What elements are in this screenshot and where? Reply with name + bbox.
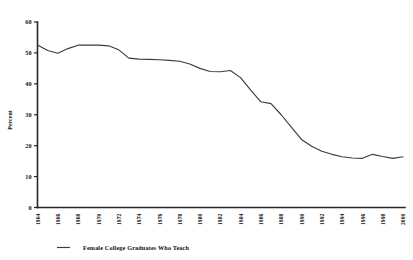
x-tick-label-1988: 1988 [278,213,284,225]
x-tick-label-1994: 1994 [339,213,345,225]
x-tick-label-1970: 1970 [96,213,102,225]
y-tick-label-60: 60 [25,18,31,25]
x-tick-label-1998: 1998 [380,213,386,225]
x-tick-label-1964: 1964 [35,213,41,225]
series-line-female-college-graduates-who-teach [38,45,404,158]
x-tick-label-1978: 1978 [177,213,183,225]
x-tick-label-1984: 1984 [238,213,244,225]
legend-entry-label: Female College Graduates Who Teach [83,244,189,251]
x-axis-group: 1964196619681970197219741976197819801982… [35,208,407,226]
x-tick-label-2000: 2000 [400,213,406,225]
legend-group: Female College Graduates Who Teach [57,244,189,251]
y-tick-label-10: 10 [25,173,31,180]
x-tick-label-1986: 1986 [258,213,264,225]
x-tick-label-1976: 1976 [157,213,163,225]
y-tick-label-30: 30 [25,111,31,118]
x-tick-label-1966: 1966 [55,213,61,225]
x-tick-label-1996: 1996 [360,213,366,225]
y-tick-label-40: 40 [25,80,31,87]
x-tick-label-1974: 1974 [136,213,142,225]
x-tick-label-group: 1964196619681970197219741976197819801982… [35,213,407,225]
x-tick-label-1990: 1990 [299,213,305,225]
x-tick-label-1982: 1982 [217,213,223,225]
x-tick-label-1992: 1992 [319,213,325,225]
line-chart-plot: 0102030405060 Percent 196419661968197019… [0,0,413,260]
y-tick-label-20: 20 [25,142,31,149]
y-tick-label-0: 0 [28,204,31,211]
y-axis-group: 0102030405060 Percent [7,18,38,211]
y-axis-title: Percent [7,110,13,130]
x-tick-label-1968: 1968 [75,213,81,225]
y-tick-label-group: 0102030405060 [25,18,31,211]
x-tick-label-1972: 1972 [116,213,122,225]
x-tick-label-1980: 1980 [197,213,203,225]
series-group [38,45,404,158]
chart-container: 0102030405060 Percent 196419661968197019… [0,0,413,260]
y-tick-label-50: 50 [25,49,31,56]
